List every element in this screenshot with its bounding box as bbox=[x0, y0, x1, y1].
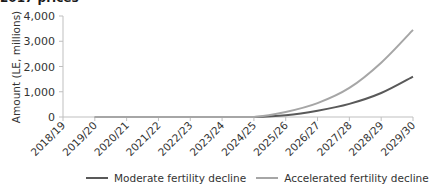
legend-label-accelerated: Accelerated fertility decline bbox=[284, 172, 429, 184]
y-tick-label: 1,000 bbox=[24, 86, 56, 99]
line-chart: 01,0002,0003,0004,000 2018/192019/202020… bbox=[0, 0, 423, 170]
y-tick-label: 0 bbox=[48, 111, 55, 124]
x-axis: 2018/192019/202020/212021/222022/232023/… bbox=[28, 117, 417, 158]
legend-item-moderate: Moderate fertility decline bbox=[86, 172, 246, 184]
y-tick-label: 4,000 bbox=[24, 10, 56, 23]
y-axis: 01,0002,0003,0004,000 bbox=[24, 10, 64, 124]
y-axis-label: Amount (LE, millions) bbox=[10, 11, 22, 123]
series-line-moderate bbox=[95, 77, 413, 117]
y-tick-label: 3,000 bbox=[24, 35, 56, 48]
legend-item-accelerated: Accelerated fertility decline bbox=[256, 172, 429, 184]
y-tick-label: 2,000 bbox=[24, 61, 56, 74]
plot-lines bbox=[95, 30, 413, 117]
legend-swatch-moderate bbox=[86, 177, 108, 179]
x-tick-label: 2029/30 bbox=[378, 119, 417, 158]
legend-label-moderate: Moderate fertility decline bbox=[114, 172, 246, 184]
legend: Moderate fertility decline Accelerated f… bbox=[86, 172, 433, 184]
legend-swatch-accelerated bbox=[256, 177, 278, 179]
series-line-accelerated bbox=[95, 30, 413, 117]
